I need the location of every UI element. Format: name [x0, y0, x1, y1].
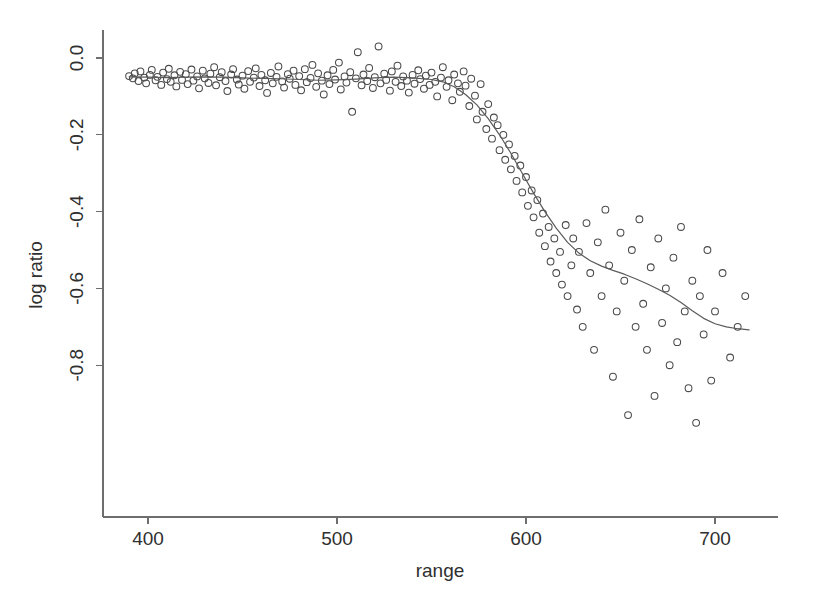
y-tick-label: -0.2 — [66, 118, 87, 151]
y-tick-label: 0.0 — [66, 45, 87, 71]
x-tick-label: 700 — [699, 528, 731, 549]
x-tick-label: 400 — [132, 528, 164, 549]
chart-figure: 400500600700 range 0.0-0.2-0.4-0.6-0.8 l… — [0, 0, 825, 611]
x-tick-label: 600 — [510, 528, 542, 549]
x-tick-label: 500 — [321, 528, 353, 549]
y-tick-label: -0.6 — [66, 272, 87, 305]
y-tick-label: -0.4 — [66, 195, 87, 228]
y-tick-label: -0.8 — [66, 349, 87, 382]
x-axis-title: range — [416, 560, 465, 581]
y-axis-title: log ratio — [25, 241, 46, 309]
scatter-plot-canvas: 400500600700 range 0.0-0.2-0.4-0.6-0.8 l… — [0, 0, 825, 611]
